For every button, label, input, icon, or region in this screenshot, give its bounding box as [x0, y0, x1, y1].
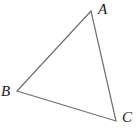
triangle-outline: [17, 11, 116, 121]
vertex-label-c: C: [122, 110, 132, 125]
triangle-diagram: A B C: [0, 0, 137, 129]
vertex-label-b: B: [1, 84, 10, 99]
triangle-figure: [0, 0, 137, 129]
vertex-label-a: A: [98, 2, 107, 17]
